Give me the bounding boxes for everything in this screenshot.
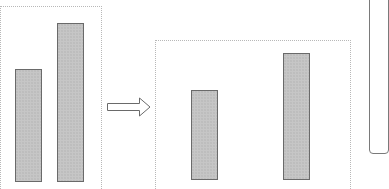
left-bar-tall	[57, 23, 84, 182]
right-arrow-icon	[107, 97, 151, 117]
right-bar-tall	[283, 53, 310, 180]
right-frame	[155, 40, 351, 189]
left-bar-short	[15, 69, 42, 182]
side-box	[369, 0, 389, 154]
right-bar-short	[191, 90, 218, 180]
